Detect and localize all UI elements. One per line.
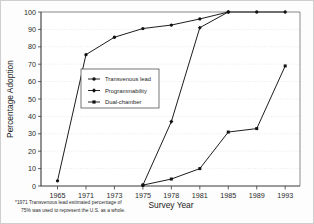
y-tick-label: 50: [28, 95, 36, 104]
x-tick-label: 1965: [50, 191, 66, 200]
legend-label: Dual-chamber: [105, 99, 141, 105]
y-tick-label: 60: [28, 77, 36, 86]
legend-label: Transvenous lead: [105, 76, 151, 82]
y-tick-label: 100: [24, 8, 36, 17]
footnote-line-2: 75% was used to represent the U.S. as a …: [21, 208, 125, 213]
y-tick-label: 90: [28, 25, 36, 34]
x-axis-title: Survey Year: [148, 200, 193, 210]
data-point: [170, 178, 173, 181]
data-point: [255, 10, 258, 13]
x-tick-label: 1975: [135, 191, 151, 200]
x-tick-label: 1971: [78, 191, 94, 200]
x-tick-label: 1985: [220, 191, 236, 200]
data-point: [170, 23, 173, 26]
y-tick-label: 30: [28, 129, 36, 138]
x-tick-label: 1978: [163, 191, 179, 200]
chart-legend: Transvenous leadProgrammabilityDual-cham…: [81, 69, 159, 108]
x-tick-label: 1981: [192, 191, 208, 200]
x-tick-label: 1993: [277, 191, 293, 200]
data-point: [198, 167, 201, 170]
x-tick-label: 1989: [249, 191, 265, 200]
y-tick-label: 70: [28, 60, 36, 69]
data-point: [141, 184, 144, 187]
x-axis: 196519711973197519781981198519891993: [50, 186, 294, 200]
legend-label: Programmability: [105, 88, 147, 94]
data-point: [198, 17, 201, 20]
y-tick-label: 0: [32, 182, 36, 191]
data-point: [284, 10, 287, 13]
data-point: [113, 36, 116, 39]
data-point: [255, 127, 258, 130]
y-axis: 0102030405060708090100: [24, 8, 41, 191]
data-point: [284, 64, 287, 67]
legend-marker: [92, 100, 95, 103]
adoption-line-chart: 0102030405060708090100 19651971197319751…: [1, 1, 314, 224]
x-tick-label: 1973: [106, 191, 122, 200]
legend-marker: [92, 77, 96, 81]
y-tick-label: 20: [28, 147, 36, 156]
footnote-line-1: *1971 Transvenous lead estimated percent…: [15, 200, 122, 205]
y-axis-title: Percentage Adoption: [5, 60, 15, 138]
chart-figure: 0102030405060708090100 19651971197319751…: [0, 0, 314, 224]
data-point: [84, 53, 87, 56]
data-point: [141, 27, 144, 30]
y-tick-label: 80: [28, 42, 36, 51]
data-point: [56, 179, 59, 182]
y-tick-label: 10: [28, 164, 36, 173]
y-tick-label: 40: [28, 112, 36, 121]
data-point: [227, 131, 230, 134]
